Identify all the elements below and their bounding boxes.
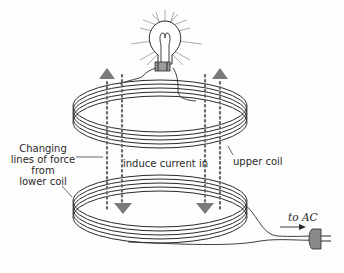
leader-upper-coil — [228, 146, 233, 155]
ac-wire-lower — [128, 240, 316, 245]
to-ac-arrow-icon — [299, 224, 306, 230]
label-line-4: lower coil — [8, 176, 78, 187]
arrow-up-right-icon — [212, 68, 228, 79]
label-line-1: Changing — [8, 143, 78, 154]
induction-diagram: Changing lines of force from lower coil … — [0, 0, 344, 273]
label-to-ac: to AC — [288, 212, 318, 223]
ac-plug-icon — [309, 229, 331, 249]
label-line-2: lines of force — [8, 154, 78, 165]
label-changing-lines: Changing lines of force from lower coil — [8, 143, 78, 187]
label-induce-current: induce current in — [123, 158, 208, 169]
label-line-3: from — [8, 165, 78, 176]
arrow-down-left-icon — [114, 203, 132, 214]
light-bulb-icon — [149, 21, 180, 71]
leader-lower-coil — [62, 186, 72, 197]
arrow-up-left-icon — [99, 68, 115, 79]
label-upper-coil: upper coil — [233, 156, 283, 167]
diagram-canvas — [0, 0, 344, 273]
arrow-down-right-icon — [196, 203, 214, 214]
